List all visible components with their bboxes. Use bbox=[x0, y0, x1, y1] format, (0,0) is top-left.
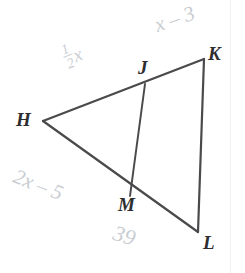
segment-LH bbox=[43, 121, 198, 232]
segment-KL bbox=[198, 59, 204, 232]
vertex-label-H: H bbox=[16, 110, 31, 129]
scan-artifact-line bbox=[230, 0, 231, 273]
segment-JM bbox=[130, 84, 145, 196]
vertex-label-K: K bbox=[208, 44, 221, 63]
geometry-diagram-canvas: H J K M L 1 2 x x – 3 2x – 5 39 bbox=[0, 0, 245, 273]
vertex-label-J: J bbox=[138, 58, 148, 77]
vertex-label-L: L bbox=[203, 233, 215, 252]
vertex-label-M: M bbox=[118, 195, 135, 214]
